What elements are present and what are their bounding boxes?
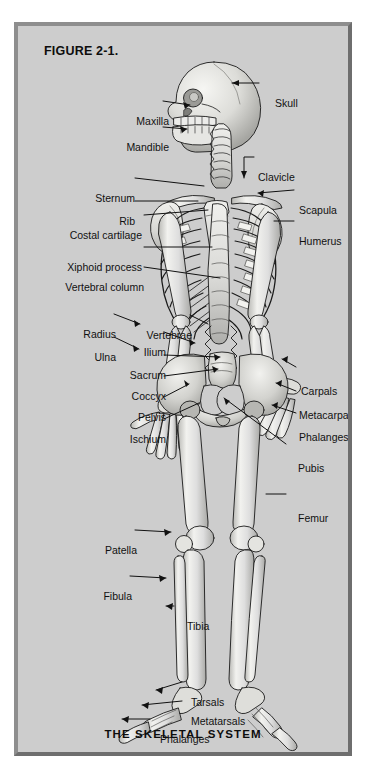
label-vertebral-column: Vertebral column	[65, 282, 144, 293]
ischium-pubis	[190, 404, 252, 427]
pelvis-group	[157, 352, 288, 427]
label-fibula: Fibula	[103, 591, 132, 602]
label-ilium: Ilium	[144, 347, 166, 358]
lumbar-vertebrae	[205, 326, 211, 373]
figure-frame: FIGURE 2-1.	[14, 22, 352, 756]
label-tarsals: Tarsals	[191, 697, 224, 708]
label-metatarsals: Metatarsals	[191, 716, 245, 727]
patella	[176, 536, 193, 553]
label-mandible: Mandible	[126, 142, 169, 153]
rib-cage-group	[161, 208, 276, 339]
label-carpals: Carpals	[301, 386, 337, 397]
forearm-right-group	[249, 326, 278, 396]
label-costal-cartilage: Costal cartilage	[70, 230, 142, 241]
label-radius: Radius	[83, 329, 116, 340]
label-humerus: Humerus	[299, 236, 342, 247]
rib-highlights	[170, 222, 260, 309]
label-ulna: Ulna	[94, 352, 116, 363]
label-sternum: Sternum	[95, 193, 135, 204]
hand-right-group	[245, 378, 301, 439]
figure-canvas: FIGURE 2-1.	[18, 26, 348, 752]
clavicle-group	[165, 195, 282, 209]
xiphoid-process	[212, 261, 223, 276]
humerus	[248, 212, 281, 321]
label-vertebrae: Vertebrae	[146, 330, 192, 341]
ilium	[157, 354, 206, 415]
carpals-right	[270, 378, 301, 394]
label-xiphoid-process: Xiphoid process	[67, 262, 142, 273]
label-skull: Skull	[275, 98, 298, 109]
label-phalanges-hand: Phalanges	[299, 432, 348, 443]
humerus-group	[158, 212, 280, 329]
femur-left	[178, 416, 208, 534]
skull-group	[168, 62, 261, 152]
label-tibia: Tibia	[187, 621, 209, 632]
leg-right-group	[229, 416, 297, 751]
label-ischium: Ischium	[130, 434, 166, 445]
femoral-condyle-left	[186, 526, 214, 550]
label-patella: Patella	[105, 545, 137, 556]
fibula	[174, 556, 188, 682]
label-femur: Femur	[298, 513, 328, 524]
scapula-group	[151, 202, 283, 259]
label-pelvis: Pelvis	[138, 412, 166, 423]
sacrum	[208, 352, 236, 391]
femur-right	[233, 416, 260, 534]
figure-number-label: FIGURE 2-1.	[44, 44, 118, 58]
hand-left-group	[131, 395, 189, 459]
label-pubis: Pubis	[298, 463, 324, 474]
label-coccyx: Coccyx	[132, 391, 166, 402]
label-clavicle: Clavicle	[258, 172, 295, 183]
skeleton-illustration	[18, 26, 348, 752]
costal-cartilage-group	[180, 276, 215, 332]
coccyx	[214, 387, 227, 406]
vertebral-column-group	[205, 204, 237, 373]
label-scapula: Scapula	[299, 205, 337, 216]
label-sacrum: Sacrum	[130, 370, 166, 381]
label-maxilla: Maxilla	[136, 116, 169, 127]
sternum-group	[204, 201, 229, 277]
cervical-vertebrae-group	[210, 124, 232, 188]
label-metacarpals: Metacarpals	[299, 410, 348, 421]
label-rib: Rib	[119, 216, 135, 227]
figure-caption: THE SKELETAL SYSTEM	[18, 728, 348, 740]
leg-left-group	[119, 416, 214, 743]
